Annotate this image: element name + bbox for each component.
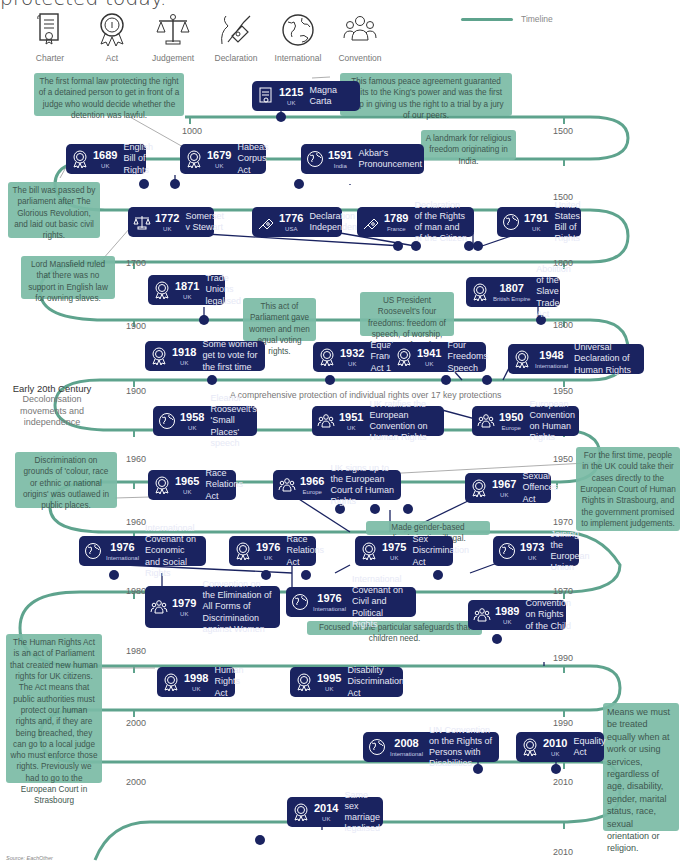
event-title: United States Bill of Rights bbox=[554, 200, 580, 245]
event-race-relations-1976[interactable]: 1976UK Race Relations Act bbox=[229, 536, 316, 566]
event-year: 1215 bbox=[279, 87, 303, 98]
act-icon bbox=[152, 475, 172, 495]
convention-icon bbox=[277, 475, 297, 495]
event-english-bill-of-rights[interactable]: 1689UK English Bill of Rights bbox=[66, 144, 146, 174]
event-akbar[interactable]: 1591India Akbar's Pronouncement bbox=[301, 144, 424, 174]
tick-label: 1950 bbox=[553, 386, 573, 396]
event-title: UN Convention on the Rights of Persons w… bbox=[429, 725, 493, 770]
event-human-rights-act[interactable]: 1998UK Human Rights Act bbox=[157, 667, 235, 697]
note-mansfield: Lord Mansfield ruled that there was no s… bbox=[21, 256, 115, 299]
event-women-vote[interactable]: 1918UK Some women get to vote for the fi… bbox=[145, 341, 265, 371]
tick-label: 1700 bbox=[126, 258, 146, 268]
tick-label: 2000 bbox=[126, 718, 146, 728]
event-country: UK bbox=[215, 163, 223, 169]
event-year: 2008 bbox=[394, 738, 418, 749]
event-country: UK bbox=[425, 361, 433, 367]
event-year: 1976 bbox=[256, 542, 280, 553]
event-country: UK bbox=[347, 425, 355, 431]
event-cedaw[interactable]: 1979UK Convention on the Elimination of … bbox=[145, 586, 280, 628]
caption-17-protections: A comprehensive protection of individual… bbox=[230, 390, 501, 400]
event-uncrc[interactable]: 1989UK Convention on Rights of the Child bbox=[468, 600, 566, 630]
event-country: Europe bbox=[303, 489, 322, 495]
act-icon bbox=[512, 349, 532, 369]
event-joining-eu[interactable]: 1973UK Joining the European Union bbox=[493, 536, 579, 566]
event-crpd[interactable]: 2008International UN Convention on the R… bbox=[363, 732, 499, 762]
tick-label: 2000 bbox=[126, 777, 146, 787]
event-echr-court[interactable]: 1966Europe UK signs up to the European C… bbox=[273, 470, 401, 500]
event-small-places-speech[interactable]: 1958UK Eleanor Roosevelt's 'Small Places… bbox=[153, 406, 257, 436]
event-year: 1941 bbox=[417, 348, 441, 359]
note-hra: The Human Rights Act is an act of Parlia… bbox=[6, 634, 102, 783]
event-title: European Convention on Human Rights bbox=[529, 399, 575, 444]
event-year: 1976 bbox=[110, 542, 134, 553]
event-country: UK bbox=[264, 555, 272, 561]
note-akbar: A landmark for religious freedom origina… bbox=[421, 130, 516, 160]
note-equal-vote: This act of Parliament gave women and me… bbox=[243, 298, 316, 341]
event-echr[interactable]: 1950Europe European Convention on Human … bbox=[472, 406, 579, 436]
event-magna-carta[interactable]: 1215UK Magna Carta bbox=[252, 81, 360, 111]
event-same-sex-marriage[interactable]: 2014UK Same sex marriage legalised bbox=[287, 797, 383, 827]
act-icon bbox=[161, 672, 181, 692]
event-title: Akbar's Pronouncement bbox=[358, 148, 422, 171]
tick-label: 1990 bbox=[553, 718, 573, 728]
event-icesr[interactable]: 1976International International Covenant… bbox=[79, 536, 206, 566]
convention-icon bbox=[316, 411, 336, 431]
event-year: 1772 bbox=[155, 213, 179, 224]
act-icon bbox=[149, 346, 169, 366]
event-declaration-rights-of-man[interactable]: 1789France Declaration of the Rights of … bbox=[357, 207, 474, 237]
tick-label: 1500 bbox=[553, 126, 573, 136]
event-somerset-v-stewart[interactable]: 1772UK Somerset v Stewart bbox=[128, 207, 214, 237]
event-four-freedoms[interactable]: 1941UK Four Freedoms Speech bbox=[390, 342, 486, 372]
event-year: 1948 bbox=[539, 350, 563, 361]
convention-icon bbox=[476, 411, 496, 431]
event-title: Universal Declaration of Human Rights bbox=[574, 342, 638, 376]
event-title: Convention on Rights of the Child bbox=[525, 598, 571, 632]
judgement-icon bbox=[132, 212, 152, 232]
act-icon bbox=[470, 282, 490, 302]
event-uk-ratifies-echr[interactable]: 1951UK UK ratifies the European Conventi… bbox=[312, 406, 444, 436]
event-title: Convention on the Elimination of All For… bbox=[202, 579, 274, 635]
event-year: 1975 bbox=[382, 542, 406, 553]
act-icon bbox=[233, 541, 253, 561]
event-country: France bbox=[387, 226, 406, 232]
event-country: International bbox=[390, 751, 423, 757]
event-udhr[interactable]: 1948International Universal Declaration … bbox=[508, 344, 644, 374]
declaration-icon bbox=[256, 212, 276, 232]
event-year: 1791 bbox=[524, 213, 548, 224]
event-year: 1958 bbox=[180, 412, 204, 423]
event-year: 1973 bbox=[520, 542, 544, 553]
event-year: 1951 bbox=[339, 412, 363, 423]
event-year: 1998 bbox=[184, 673, 208, 684]
act-icon bbox=[184, 149, 204, 169]
event-country: British Empire bbox=[493, 296, 530, 302]
act-icon bbox=[394, 347, 414, 367]
event-habeas-corpus[interactable]: 1679UK Habeas Corpus Act bbox=[180, 144, 266, 174]
event-title: Joining the European Union bbox=[550, 529, 589, 574]
act-icon bbox=[294, 672, 314, 692]
event-year: 1965 bbox=[175, 476, 199, 487]
act-icon bbox=[520, 737, 540, 757]
tick-label: 1800 bbox=[553, 320, 573, 330]
event-equality-act[interactable]: 2010UK Equality Act bbox=[516, 732, 604, 762]
event-declaration-of-independence[interactable]: 1776USA Declaration of Independence bbox=[252, 207, 342, 237]
event-race-relations-1965[interactable]: 1965UK Race Relations Act bbox=[148, 470, 236, 500]
event-sex-discrimination-act[interactable]: 1975UK Sex Discrimination Act bbox=[355, 536, 453, 566]
event-title: Abolition of the Slave Trade Act bbox=[536, 264, 571, 320]
note-echr: For the first time, people in the UK cou… bbox=[576, 447, 680, 531]
event-iccpr[interactable]: 1976International International Covenant… bbox=[286, 587, 416, 617]
event-sexual-offences-act[interactable]: 1967UK Sexual Offences Act bbox=[465, 473, 551, 503]
event-disability-discrimination-act[interactable]: 1995UK Disability Discrimination Act bbox=[290, 667, 403, 697]
international-icon bbox=[83, 541, 103, 561]
event-year: 1776 bbox=[279, 213, 303, 224]
event-year: 1689 bbox=[93, 150, 117, 161]
event-trade-unions[interactable]: 1871UK Trade Unions legalised bbox=[148, 275, 225, 305]
event-title: Somerset v Stewart bbox=[185, 211, 224, 234]
event-year: 1995 bbox=[317, 673, 341, 684]
event-year: 2010 bbox=[543, 738, 567, 749]
event-us-bill-of-rights[interactable]: 1791UK United States Bill of Rights bbox=[497, 207, 581, 237]
event-title: Sexual Offences Act bbox=[522, 471, 558, 505]
event-year: 1966 bbox=[300, 476, 324, 487]
event-slave-trade-act[interactable]: 1807British Empire Abolition of the Slav… bbox=[466, 277, 560, 307]
event-title: International Covenant on Economic and S… bbox=[145, 523, 200, 579]
event-country: India bbox=[334, 163, 347, 169]
